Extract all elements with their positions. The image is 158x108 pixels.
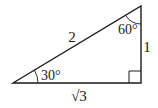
base-label: √3: [71, 88, 87, 104]
vertical-side-label: 1: [143, 39, 151, 55]
angle-30-label: 30°: [41, 68, 61, 83]
angle-60-label: 60°: [118, 22, 138, 37]
triangle-diagram: 2 1 √3 30° 60°: [0, 0, 158, 108]
hypotenuse-label: 2: [68, 29, 76, 45]
triangle-outline: [13, 6, 141, 83]
angle-arc-30: [34, 70, 38, 83]
right-angle-marker: [129, 71, 141, 83]
